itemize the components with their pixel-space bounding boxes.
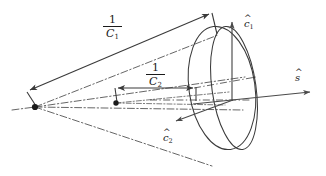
fraction-numerator: 1: [146, 62, 165, 75]
radius-major-tick-far: [212, 13, 217, 34]
fraction-one-over-c1: 1 C1: [103, 14, 122, 41]
vector-symbol-s: ^s: [295, 73, 300, 83]
radius-major-tick: [27, 92, 36, 106]
label-radius-major: 1 C1: [103, 14, 122, 41]
elliptical-cap: [181, 22, 265, 154]
cone-generator-lines: [12, 35, 245, 166]
cone-diagram-figure: 1 C1 1 C2 ^c1 ^c2 ^s: [0, 0, 326, 176]
vector-symbol-c1: ^c1: [244, 19, 254, 30]
fraction-numerator: 1: [103, 14, 122, 27]
fraction-denominator-subscript: 1: [114, 33, 118, 41]
inner-generator-upper: [116, 92, 229, 103]
label-radius-minor: 1 C2: [146, 62, 165, 89]
label-vector-s: ^s: [295, 68, 300, 84]
label-vector-c1: ^c1: [244, 14, 254, 30]
inner-point: [113, 100, 118, 105]
radius-major-arrow: [27, 13, 217, 106]
fraction-one-over-c2: 1 C2: [146, 62, 165, 89]
ellipse-outer-rim: [181, 22, 264, 154]
vector-subscript: 1: [250, 23, 254, 31]
fraction-denominator: C2: [146, 75, 165, 89]
generator-lower: [35, 107, 212, 166]
vector-subscript: 2: [169, 137, 173, 145]
inner-cone-generator-lines: [116, 92, 229, 105]
generator-axis: [12, 107, 35, 110]
vector-symbol-c2: ^c2: [163, 133, 173, 144]
hat-accent-icon: ^: [244, 14, 252, 23]
apex-point: [32, 104, 38, 110]
hat-accent-icon: ^: [163, 128, 171, 137]
fraction-denominator-subscript: 2: [157, 81, 161, 89]
fraction-denominator: C1: [103, 27, 122, 41]
hat-accent-icon: ^: [295, 68, 298, 77]
generator-mid-upper: [35, 77, 245, 107]
chord-upper: [194, 77, 256, 88]
inner-generator-lower: [116, 103, 225, 105]
label-vector-c2: ^c2: [163, 128, 173, 144]
generator-upper: [35, 35, 218, 107]
